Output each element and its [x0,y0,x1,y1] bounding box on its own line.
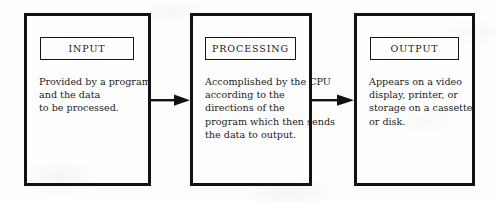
body-line: according to the [205,88,304,101]
stage-label-box-output: OUTPUT [370,37,459,60]
flow-diagram: INPUT Provided by a program and the data… [0,0,497,202]
right-arrow-icon [312,94,354,107]
stage-body-processing: Accomplished by the CPU according to the… [205,75,304,141]
body-line: the data to output. [205,128,304,141]
body-line: display, printer, or [369,88,467,101]
stage-label-output: OUTPUT [390,43,438,54]
stage-body-input: Provided by a program and the data to be… [39,75,143,115]
stage-label-input: INPUT [68,43,105,54]
stage-box-output: OUTPUT Appears on a video display, print… [354,13,475,186]
body-line: or disk. [369,115,467,128]
right-arrow-icon [151,94,190,107]
stage-box-processing: PROCESSING Accomplished by the CPU accor… [190,13,312,186]
body-line: and the data [39,88,143,101]
body-line: Appears on a video [369,75,467,88]
stage-label-box-processing: PROCESSING [205,37,296,60]
stage-body-output: Appears on a video display, printer, or … [369,75,467,128]
body-line: directions of the [205,101,304,114]
body-line: Provided by a program [39,75,143,88]
body-line: program which then sends [205,115,304,128]
stage-label-processing: PROCESSING [212,43,289,54]
body-line: storage on a cassette [369,101,467,114]
stage-box-input: INPUT Provided by a program and the data… [24,13,151,186]
body-line: to be processed. [39,101,143,114]
body-line: Accomplished by the CPU [205,75,304,88]
stage-label-box-input: INPUT [40,37,134,60]
